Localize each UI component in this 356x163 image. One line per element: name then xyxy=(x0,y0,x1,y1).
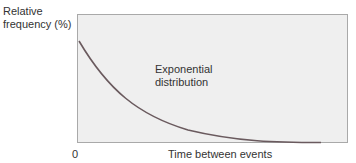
y-axis-label: Relative frequency (%) xyxy=(3,5,71,31)
annotation-line1: Exponential xyxy=(155,63,213,76)
y-axis-label-line1: Relative xyxy=(3,5,71,18)
exponential-curve xyxy=(78,15,349,144)
curve-annotation: Exponential distribution xyxy=(155,63,213,89)
y-axis-label-line2: frequency (%) xyxy=(3,18,71,31)
annotation-line2: distribution xyxy=(155,76,213,89)
x-axis-label: Time between events xyxy=(168,148,272,160)
x-tick-zero: 0 xyxy=(72,148,78,160)
plot-area xyxy=(77,14,348,143)
